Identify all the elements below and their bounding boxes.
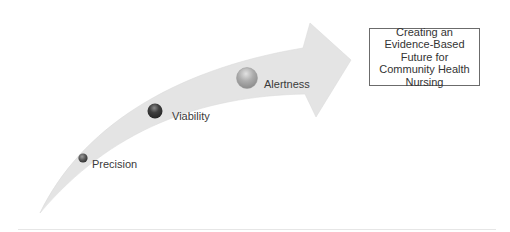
milestone-label-alertness: Alertness: [264, 78, 310, 90]
milestone-dot-precision: [78, 153, 87, 162]
goal-box: Creating an Evidence-Based Future for Co…: [369, 28, 480, 86]
milestone-label-viability: Viability: [172, 110, 210, 122]
bottom-divider: [18, 229, 496, 230]
milestone-dot-viability: [148, 104, 163, 119]
goal-text: Creating an Evidence-Based Future for Co…: [373, 26, 476, 89]
milestone-dot-alertness: [237, 68, 258, 89]
milestone-label-precision: Precision: [92, 158, 137, 170]
